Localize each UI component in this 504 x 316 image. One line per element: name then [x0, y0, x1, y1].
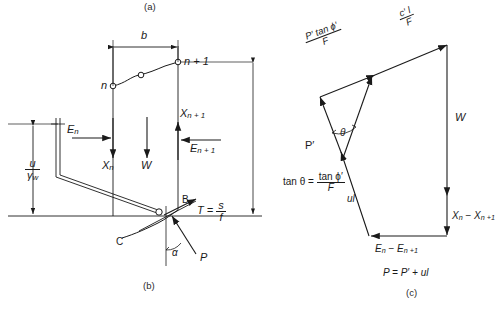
- point-C-label: C: [116, 237, 123, 248]
- vector-label-X-difference-symbol-a: X: [452, 210, 459, 221]
- force-label-En1: En + 1: [190, 143, 215, 156]
- equation-tan-theta-fraction: tan ϕ′ F: [317, 172, 345, 193]
- vector-label-X-difference-subscript-b: n +1: [481, 213, 495, 222]
- shear-strength-label: T = s f: [197, 200, 226, 223]
- slip-surface-arc: [122, 210, 178, 238]
- equation-tan-theta-denominator: F: [317, 183, 345, 193]
- piezometric-head-fraction: u γw: [25, 158, 40, 182]
- alpha-arc-tick-left: [166, 247, 169, 250]
- vector-P-resultant: [343, 76, 372, 158]
- node-n-plus-1-label: n + 1: [184, 56, 209, 68]
- force-label-En-subscript: n: [74, 127, 78, 136]
- piezometric-head-denominator: γw: [25, 170, 40, 182]
- shear-strength-fraction: s f: [216, 200, 226, 223]
- node-mid-marker: [138, 72, 144, 78]
- theta-angle-label: θ: [340, 128, 345, 139]
- vector-label-E-difference-subscript-b: n +1: [404, 246, 418, 255]
- vector-label-P-prime: P′: [305, 140, 314, 152]
- vector-friction: [320, 75, 375, 97]
- force-label-En1-subscript: n + 1: [197, 146, 215, 155]
- shear-strength-denominator: f: [216, 212, 226, 223]
- figure-root: (a) (b) (c) b n n + 1 En Xn W Xn + 1 En …: [0, 0, 504, 316]
- force-label-Xn1-subscript: n + 1: [187, 111, 205, 120]
- slice-width-label: b: [141, 30, 147, 42]
- vector-label-X-difference-symbol-b: X: [474, 210, 481, 221]
- point-B-label: B: [182, 195, 189, 206]
- vector-ul: [341, 152, 369, 236]
- piezometer-tube-inner-diagonal: [60, 175, 158, 210]
- alpha-angle-label: α: [172, 248, 178, 259]
- vector-label-X-difference: Xn − Xn +1: [452, 211, 495, 222]
- vector-label-E-difference-dash: −: [386, 243, 397, 254]
- panel-caption-b: (b): [143, 281, 155, 291]
- piezometric-head-label: u γw: [25, 158, 40, 182]
- piezometer-tube-outer-diagonal: [56, 177, 157, 213]
- vector-label-X-difference-dash: −: [463, 210, 474, 221]
- slip-base-point-marker: [156, 209, 162, 215]
- vector-label-E-difference-symbol-b: E: [397, 243, 404, 254]
- force-label-Xn-subscript: n: [109, 163, 113, 172]
- force-label-P: P: [200, 252, 207, 264]
- shear-strength-lhs: T =: [197, 204, 216, 216]
- panel-b-geometry: [8, 40, 262, 266]
- ground-surface-curve: [113, 62, 178, 86]
- panel-caption-a: (a): [144, 2, 156, 12]
- vector-label-ul: ul: [347, 194, 355, 205]
- force-arrow-T: [164, 199, 196, 215]
- vector-label-E-difference: En − En +1: [375, 244, 418, 255]
- panel-b-force-arrows: [72, 117, 221, 254]
- equation-tan-theta-lhs: tan θ =: [283, 176, 317, 187]
- piezometric-head-denominator-subscript: w: [33, 173, 39, 182]
- weight-label-W: W: [141, 160, 151, 172]
- force-label-Xn1: Xn + 1: [180, 108, 205, 121]
- vector-label-E-difference-symbol-a: E: [375, 243, 382, 254]
- panel-c-force-polygon: [320, 45, 447, 236]
- equation-tan-theta: tan θ = tan ϕ′ F: [283, 172, 345, 193]
- equation-P-definition: P = P′ + ul: [383, 268, 428, 279]
- vector-label-W: W: [455, 112, 465, 124]
- node-n-label: n: [101, 80, 107, 92]
- force-label-En: En: [67, 124, 79, 137]
- force-label-Xn: Xn: [102, 160, 114, 173]
- panel-caption-c: (c): [406, 288, 417, 298]
- vector-cohesion: [375, 45, 447, 75]
